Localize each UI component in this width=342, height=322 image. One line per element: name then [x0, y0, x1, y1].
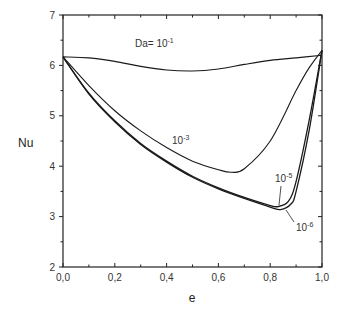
y-tick-label: 6 — [49, 60, 55, 71]
x-tick-label: 0,8 — [263, 272, 277, 283]
plot-frame — [63, 15, 322, 267]
axis-ticks: 0,00,20,40,60,81,0234567 — [49, 10, 329, 284]
plot-border — [63, 15, 322, 267]
curve-label: 10-5 — [275, 172, 292, 184]
y-tick-label: 4 — [49, 161, 55, 172]
curve-minus1 — [63, 55, 322, 71]
y-tick-label: 2 — [49, 262, 55, 273]
x-tick-label: 1,0 — [315, 272, 329, 283]
leader-line — [286, 210, 294, 222]
curve-minus6 — [63, 50, 322, 209]
y-tick-label: 5 — [49, 110, 55, 121]
curve-minus3 — [63, 50, 322, 172]
curve-label: 10-6 — [296, 221, 313, 233]
curve-label: Da= 10-1 — [135, 37, 174, 49]
x-tick-label: 0,2 — [108, 272, 122, 283]
x-axis-title: e — [189, 291, 196, 305]
curves — [63, 50, 322, 209]
x-tick-label: 0,4 — [160, 272, 174, 283]
y-tick-label: 7 — [49, 10, 55, 21]
nusselt-number-chart: 0,00,20,40,60,81,0234567 Da= 10-110-310-… — [0, 0, 342, 322]
x-tick-label: 0,6 — [211, 272, 225, 283]
y-tick-label: 3 — [49, 211, 55, 222]
y-axis-title: Nu — [18, 136, 33, 150]
leader-line — [279, 186, 281, 205]
x-tick-label: 0,0 — [56, 272, 70, 283]
curve-label: 10-3 — [172, 134, 189, 146]
